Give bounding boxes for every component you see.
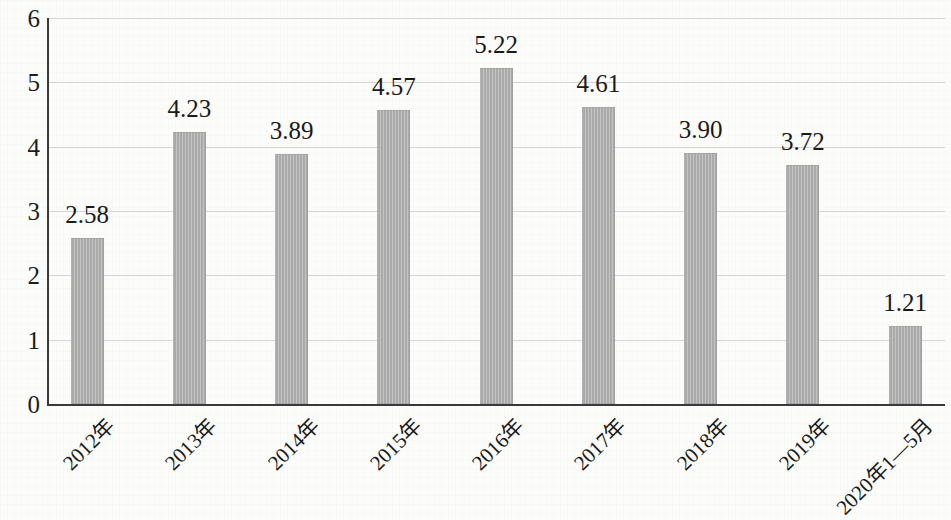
x-axis-category-label: 2014年 [259,410,325,476]
bar [377,110,410,404]
bar-chart: 6543210 2.584.233.894.575.224.613.903.72… [0,0,951,520]
bar [582,107,615,404]
x-axis-category-label: 2015年 [361,410,427,476]
bar-value-label: 4.61 [553,71,643,96]
bar-value-label: 4.57 [349,74,439,99]
bar [889,326,922,404]
x-axis-category-label: 2013年 [157,410,223,476]
x-axis-category-label: 2017年 [566,410,632,476]
y-axis-tick-label: 2 [6,263,40,288]
gridline [47,18,945,19]
bar [173,132,206,404]
x-axis-category-label: 2016年 [463,410,529,476]
x-axis-line [47,404,945,406]
bar-value-label: 5.22 [451,32,541,57]
y-axis-tick-label: 3 [6,199,40,224]
x-axis-category-label: 2012年 [54,410,120,476]
bar [684,153,717,404]
bar-value-label: 2.58 [42,202,132,227]
bar [480,68,513,404]
bar-value-label: 3.90 [656,117,746,142]
y-axis-tick-label: 4 [6,134,40,159]
bar-value-label: 3.89 [247,118,337,143]
x-axis-category-label: 2019年 [770,410,836,476]
y-axis-tick-label: 1 [6,327,40,352]
y-axis-tick-label: 0 [6,392,40,417]
bar [275,154,308,404]
bar [71,238,104,404]
x-axis-category-label: 2018年 [668,410,734,476]
y-axis-tick-label: 6 [6,6,40,31]
bar-value-label: 4.23 [144,96,234,121]
plot-area [47,18,945,404]
x-axis-category-label: 2020年1—5月 [828,410,938,520]
bar-value-label: 3.72 [758,129,848,154]
y-axis-tick-label: 5 [6,70,40,95]
bar [786,165,819,404]
bar-value-label: 1.21 [860,290,950,315]
